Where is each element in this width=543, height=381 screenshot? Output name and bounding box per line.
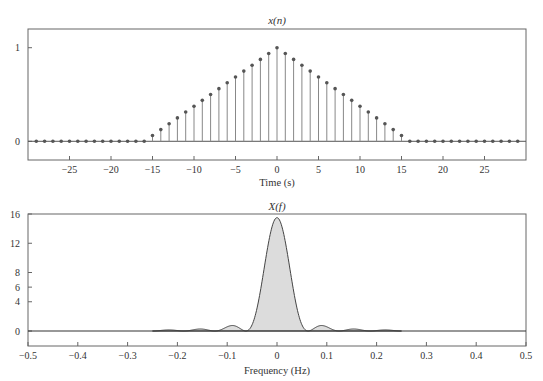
stem-marker (466, 139, 470, 143)
stem-marker (192, 104, 196, 108)
stem-marker (292, 58, 296, 62)
stem-marker (342, 93, 346, 97)
stem-marker (118, 139, 122, 143)
x-tick-label: 25 (480, 164, 490, 175)
stem-marker (325, 81, 329, 85)
stem-marker (225, 81, 229, 85)
x-tick-label: −0.3 (119, 350, 137, 361)
stem-marker (367, 110, 371, 114)
x-tick-label: −0.2 (168, 350, 186, 361)
stem-marker (217, 87, 221, 91)
spectrum-area (153, 218, 402, 331)
stem-marker (242, 69, 246, 73)
stem-marker (508, 139, 512, 143)
stem-marker (425, 139, 429, 143)
stem-marker (151, 134, 155, 138)
x-tick-label: −25 (62, 164, 78, 175)
stem-marker (433, 139, 437, 143)
stem-marker (516, 139, 520, 143)
stem-marker (43, 139, 47, 143)
x-tick-label: 0.4 (470, 350, 483, 361)
stem-marker (109, 139, 113, 143)
x-tick-label: −0.5 (19, 350, 37, 361)
stem-marker (383, 122, 387, 126)
stem-marker (159, 128, 163, 132)
stem-marker (317, 75, 321, 79)
x-tick-label: 0.2 (370, 350, 383, 361)
top-y-ticks: 01 (15, 42, 32, 147)
stem-marker (300, 63, 304, 67)
top-plot-title: x(n) (267, 14, 286, 27)
stem-marker (333, 87, 337, 91)
x-tick-label: 20 (438, 164, 448, 175)
stem-marker (35, 139, 39, 143)
x-tick-label: −10 (186, 164, 202, 175)
stem-marker (391, 128, 395, 132)
stem-marker (234, 75, 238, 79)
bottom-x-axis-label: Frequency (Hz) (244, 365, 311, 377)
stem-marker (416, 139, 420, 143)
stem-series (35, 46, 520, 143)
stem-marker (275, 46, 279, 50)
x-tick-label: −5 (230, 164, 241, 175)
stem-marker (450, 139, 454, 143)
x-tick-label: −20 (103, 164, 119, 175)
y-tick-label: 1 (15, 42, 20, 53)
stem-marker (441, 139, 445, 143)
stem-marker (408, 139, 412, 143)
stem-marker (201, 99, 205, 103)
stem-marker (184, 110, 188, 114)
stem-marker (259, 58, 263, 62)
stem-marker (134, 139, 138, 143)
y-tick-label: 6 (15, 282, 20, 293)
y-tick-label: 0 (15, 136, 20, 147)
stem-marker (491, 139, 495, 143)
y-tick-label: 16 (10, 209, 20, 220)
stem-marker (483, 139, 487, 143)
stem-marker (284, 52, 288, 56)
subplot-time-domain: x(n) −25−20−15−10−50510152025 01 Time (s… (15, 14, 526, 189)
stem-marker (458, 139, 462, 143)
x-tick-label: 0.5 (520, 350, 533, 361)
stem-marker (176, 116, 180, 120)
x-tick-label: 5 (316, 164, 321, 175)
stem-marker (101, 139, 105, 143)
x-tick-label: 15 (397, 164, 407, 175)
stem-marker (250, 63, 254, 67)
stem-marker (93, 139, 97, 143)
stem-marker (267, 52, 271, 56)
y-tick-label: 12 (10, 238, 20, 249)
stem-marker (209, 93, 213, 97)
stem-marker (68, 139, 72, 143)
stem-marker (499, 139, 503, 143)
stem-marker (474, 139, 478, 143)
x-tick-label: 0.3 (420, 350, 433, 361)
top-x-axis-label: Time (s) (259, 177, 295, 189)
stem-marker (375, 116, 379, 120)
x-tick-label: −0.4 (69, 350, 87, 361)
stem-marker (76, 139, 80, 143)
top-x-ticks: −25−20−15−10−50510152025 (62, 156, 490, 175)
y-tick-label: 8 (15, 267, 20, 278)
x-tick-label: 0 (275, 350, 280, 361)
x-tick-label: −0.1 (218, 350, 236, 361)
stem-marker (167, 122, 171, 126)
bottom-y-ticks: 04681216 (10, 209, 32, 337)
x-tick-label: 10 (355, 164, 365, 175)
x-tick-label: 0.1 (321, 350, 334, 361)
stem-marker (51, 139, 55, 143)
stem-marker (350, 99, 354, 103)
figure: x(n) −25−20−15−10−50510152025 01 Time (s… (0, 0, 543, 381)
stem-marker (59, 139, 63, 143)
stem-marker (308, 69, 312, 73)
x-tick-label: −15 (145, 164, 161, 175)
stem-marker (358, 104, 362, 108)
stem-marker (400, 134, 404, 138)
stem-marker (84, 139, 88, 143)
stem-marker (126, 139, 130, 143)
bottom-plot-title: X(f) (267, 200, 285, 213)
y-tick-label: 4 (15, 296, 20, 307)
stem-marker (142, 139, 146, 143)
x-tick-label: 0 (275, 164, 280, 175)
bottom-x-ticks: −0.5−0.4−0.3−0.2−0.100.10.20.30.40.5 (19, 342, 532, 361)
